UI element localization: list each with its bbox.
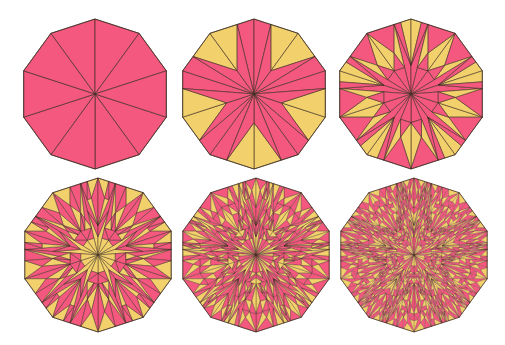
figure-sheet xyxy=(0,0,505,345)
tiling-panel-1 xyxy=(175,15,333,173)
tile-group xyxy=(24,19,167,169)
decagon-tiling-5 xyxy=(333,174,495,336)
tiling-panel-5 xyxy=(333,174,495,336)
decagon-tiling-1 xyxy=(175,15,333,173)
tile-group xyxy=(183,178,329,332)
tiling-panel-0 xyxy=(16,15,174,173)
tiling-panel-3 xyxy=(17,174,179,336)
decagon-tiling-0 xyxy=(16,15,174,173)
tiling-panel-2 xyxy=(332,15,490,173)
decagon-tiling-4 xyxy=(175,174,337,336)
tile-group xyxy=(340,19,483,169)
tile-group xyxy=(25,178,171,332)
decagon-tiling-3 xyxy=(17,174,179,336)
tiling-panel-4 xyxy=(175,174,337,336)
decagon-tiling-2 xyxy=(332,15,490,173)
tile-group xyxy=(183,19,326,169)
tile-group xyxy=(341,178,487,332)
